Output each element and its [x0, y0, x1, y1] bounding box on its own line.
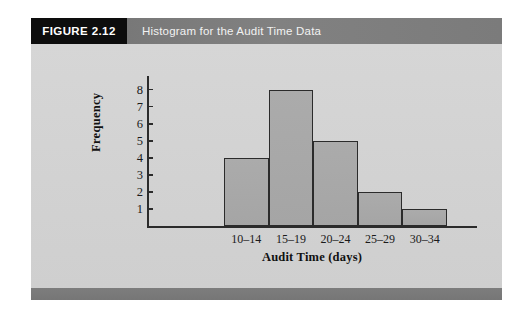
y-axis-tick — [147, 140, 153, 142]
y-axis-tick-label: 1 — [129, 201, 143, 216]
x-axis-line — [147, 226, 477, 228]
y-axis-tick-label: 2 — [129, 184, 143, 199]
x-axis-title: Audit Time (days) — [147, 250, 477, 265]
histogram-bar — [358, 192, 403, 226]
chart-panel: Frequency Audit Time (days) 1234567810–1… — [31, 44, 502, 288]
figure-title-box: Histogram for the Audit Time Data — [127, 18, 502, 44]
figure-title-label: Histogram for the Audit Time Data — [142, 25, 321, 37]
figure-number-box: FIGURE 2.12 — [31, 18, 127, 44]
y-axis-tick-label: 7 — [129, 99, 143, 114]
x-axis-tick-label: 20–24 — [321, 232, 351, 247]
x-axis-tick-label: 10–14 — [231, 232, 261, 247]
y-axis-tick-label: 8 — [129, 82, 143, 97]
y-axis-tick — [147, 208, 153, 210]
histogram-bar — [313, 141, 358, 226]
y-axis-tick — [147, 174, 153, 176]
figure-number-label: FIGURE 2.12 — [42, 25, 115, 37]
x-axis-tick-label: 25–29 — [365, 232, 395, 247]
y-axis-tick — [147, 123, 153, 125]
y-axis-tick-label: 5 — [129, 133, 143, 148]
figure-footer-bar — [31, 288, 502, 300]
y-axis-tick — [147, 89, 153, 91]
y-axis-tick-label: 6 — [129, 116, 143, 131]
y-axis-line — [147, 76, 149, 228]
figure-container: FIGURE 2.12 Histogram for the Audit Time… — [0, 0, 525, 319]
x-axis-tick-label: 15–19 — [276, 232, 306, 247]
figure-caption-bar: FIGURE 2.12 Histogram for the Audit Time… — [31, 18, 502, 44]
histogram-bar — [224, 158, 269, 226]
y-axis-tick — [147, 106, 153, 108]
histogram-plot: Frequency Audit Time (days) 1234567810–1… — [31, 44, 502, 288]
x-axis-tick-label: 30–34 — [410, 232, 440, 247]
y-axis-title: Frequency — [89, 93, 104, 152]
y-axis-tick-label: 4 — [129, 150, 143, 165]
histogram-bar — [402, 209, 447, 226]
histogram-bar — [269, 90, 314, 226]
y-axis-tick-label: 3 — [129, 167, 143, 182]
y-axis-tick — [147, 191, 153, 193]
y-axis-tick — [147, 157, 153, 159]
